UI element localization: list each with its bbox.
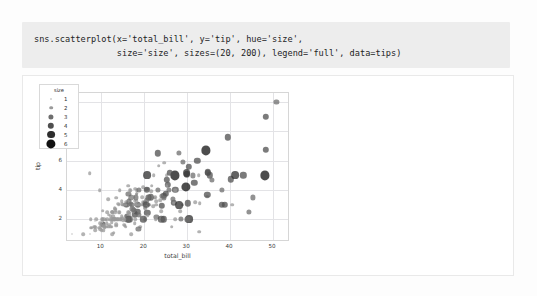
scatter-point <box>132 203 136 207</box>
scatter-point <box>231 203 235 207</box>
scatter-point <box>159 203 165 209</box>
scatter-point <box>155 150 161 156</box>
x-tick-label: 30 <box>183 243 190 249</box>
scatter-point <box>137 203 141 207</box>
scatter-point <box>198 230 202 234</box>
legend-marker-icon <box>48 122 54 128</box>
scatter-point <box>183 169 191 177</box>
scatter-point <box>71 233 73 235</box>
scatter-point <box>274 99 279 104</box>
scatter-point <box>210 178 215 183</box>
legend-item: 4 <box>40 121 80 130</box>
legend-item: 2 <box>40 103 80 112</box>
scatter-point <box>180 159 185 164</box>
y-tick-label: 6 <box>52 157 62 163</box>
scatter-point <box>190 173 195 178</box>
scatter-point <box>161 195 166 200</box>
scatter-point <box>90 226 94 230</box>
scatterplot-figure: 1020304050 246810 total_bill tip size 12… <box>31 80 301 270</box>
scatter-point <box>143 202 149 208</box>
scatter-point <box>88 171 92 175</box>
scatter-point <box>114 207 118 211</box>
scatter-point <box>94 220 96 222</box>
size-legend: size 123456 <box>39 84 79 149</box>
legend-item: 5 <box>40 130 80 139</box>
scatter-point <box>159 210 163 214</box>
scatter-point <box>177 151 182 156</box>
legend-item-label: 2 <box>64 105 67 111</box>
scatter-point <box>155 187 160 192</box>
scatter-point <box>219 187 224 192</box>
y-axis-label: tip <box>34 162 41 170</box>
scatter-point <box>197 174 201 178</box>
scatter-point <box>157 164 161 168</box>
legend-item-label: 4 <box>64 123 67 129</box>
scatter-point <box>143 171 151 179</box>
x-tick-label: 50 <box>268 243 275 249</box>
gridline-vertical <box>230 93 231 240</box>
legend-item-label: 6 <box>64 141 67 147</box>
gridline-horizontal <box>67 161 288 162</box>
legend-item-label: 1 <box>64 96 67 102</box>
notebook-output-page: sns.scatterplot(x='total_bill', y='tip',… <box>0 0 537 296</box>
scatter-point <box>198 201 202 205</box>
output-card: 1020304050 246810 total_bill tip size 12… <box>22 75 514 276</box>
scatter-point <box>100 229 104 233</box>
scatter-point <box>100 218 104 222</box>
scatter-point <box>136 187 141 192</box>
scatter-point <box>136 226 141 231</box>
legend-marker-icon <box>48 114 53 119</box>
y-tick-label: 4 <box>52 186 62 192</box>
scatter-point <box>114 196 118 200</box>
scatter-point <box>133 221 137 225</box>
scatter-point <box>152 205 156 209</box>
scatter-point <box>152 174 156 178</box>
legend-marker-icon <box>47 131 55 139</box>
x-axis-label: total_bill <box>66 252 289 259</box>
plot-axes <box>66 92 289 241</box>
gridline-vertical <box>273 93 274 240</box>
scatter-point <box>89 233 91 235</box>
scatter-point <box>185 200 191 206</box>
scatter-point <box>118 188 122 192</box>
legend-marker-icon <box>49 106 53 110</box>
scatter-point <box>101 209 105 213</box>
scatter-point <box>119 218 123 222</box>
scatter-point <box>146 214 150 218</box>
scatter-point <box>111 232 115 236</box>
scatter-point <box>89 218 93 222</box>
scatter-point <box>106 225 110 229</box>
scatter-point <box>240 172 246 178</box>
x-tick-label: 40 <box>226 243 233 249</box>
scatter-point <box>163 161 167 165</box>
scatter-point <box>127 184 131 188</box>
legend-item: 1 <box>40 94 80 103</box>
x-tick-label: 10 <box>97 243 104 249</box>
scatter-point <box>109 215 113 219</box>
scatter-point <box>114 224 118 228</box>
scatter-point <box>170 225 174 229</box>
legend-marker-icon <box>50 98 52 100</box>
scatter-point <box>150 184 154 188</box>
scatter-point <box>201 146 210 155</box>
scatter-point <box>98 188 102 192</box>
scatter-point <box>263 113 269 119</box>
scatter-point <box>173 218 177 222</box>
scatter-point <box>93 229 97 233</box>
scatter-point <box>126 210 130 214</box>
scatter-point <box>117 203 121 207</box>
scatter-point <box>123 203 127 207</box>
code-cell[interactable]: sns.scatterplot(x='total_bill', y='tip',… <box>22 22 510 68</box>
legend-marker-icon <box>46 139 55 148</box>
y-tick-label: 2 <box>52 215 62 221</box>
code-line-1: sns.scatterplot(x='total_bill', y='tip',… <box>34 34 303 44</box>
scatter-point <box>231 171 239 179</box>
scatter-point <box>140 195 144 199</box>
code-line-2: size='size', sizes=(20, 200), legend='fu… <box>34 48 401 58</box>
legend-item: 3 <box>40 112 80 121</box>
scatter-point <box>204 192 210 198</box>
scatter-point <box>175 201 183 209</box>
scatter-point <box>114 210 118 214</box>
scatter-point <box>112 218 116 222</box>
scatter-point <box>246 209 251 214</box>
